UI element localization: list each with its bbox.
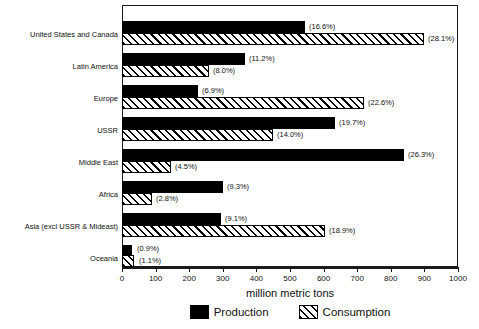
value-label-production-latin-america: (11.2%) [249, 53, 275, 65]
category-label-oceania: Oceania [0, 254, 118, 263]
bar-consumption-europe [122, 97, 364, 109]
value-label-production-united-states-and-canada: (16.6%) [309, 21, 335, 33]
legend-label-production: Production [214, 306, 269, 318]
x-tick-label-500: 500 [275, 274, 305, 284]
legend-swatch-consumption-icon [299, 305, 318, 319]
legend-item-production: Production [190, 305, 269, 319]
x-tick-400 [256, 267, 257, 272]
bar-production-united-states-and-canada [122, 21, 305, 33]
category-label-ussr: USSR [0, 126, 118, 135]
value-label-consumption-latin-america: (8.0%) [213, 65, 235, 77]
legend-swatch-production-icon [190, 305, 209, 319]
bar-consumption-oceania [122, 255, 134, 267]
category-label-europe: Europe [0, 94, 118, 103]
x-tick-800 [391, 267, 392, 272]
value-label-production-africa: (9.3%) [227, 181, 249, 193]
value-label-production-europe: (6.9%) [202, 85, 224, 97]
bar-consumption-africa [122, 193, 152, 205]
x-tick-label-0: 0 [107, 274, 137, 284]
x-tick-label-300: 300 [208, 274, 238, 284]
category-label-united-states-and-canada: United States and Canada [0, 30, 118, 39]
x-tick-label-700: 700 [342, 274, 372, 284]
x-tick-label-400: 400 [241, 274, 271, 284]
value-label-production-ussr: (19.7%) [339, 117, 365, 129]
bar-production-ussr [122, 117, 335, 129]
value-label-consumption-europe: (22.6%) [368, 97, 394, 109]
bar-production-middle-east [122, 149, 404, 161]
value-label-production-oceania: (0.9%) [137, 243, 159, 255]
value-label-production-middle-east: (26.3%) [408, 149, 434, 161]
legend-item-consumption: Consumption [299, 305, 391, 319]
x-tick-label-600: 600 [309, 274, 339, 284]
x-tick-900 [424, 267, 425, 272]
x-tick-100 [156, 267, 157, 272]
category-label-africa: Africa [0, 190, 118, 199]
value-label-consumption-asia: (18.9%) [329, 225, 355, 237]
bar-chart: United States and Canada Latin America E… [0, 0, 479, 329]
value-label-consumption-africa: (2.8%) [156, 193, 178, 205]
category-label-asia: Asia (excl USSR & Mideast) [0, 222, 118, 231]
bar-production-africa [122, 181, 223, 193]
chart-legend: Production Consumption [122, 305, 458, 319]
x-tick-label-100: 100 [141, 274, 171, 284]
x-tick-200 [189, 267, 190, 272]
bar-consumption-asia [122, 225, 325, 237]
bar-production-asia [122, 213, 221, 225]
x-tick-1000 [458, 267, 459, 272]
x-tick-label-900: 900 [409, 274, 439, 284]
value-label-consumption-ussr: (14.0%) [277, 129, 303, 141]
x-tick-label-200: 200 [174, 274, 204, 284]
category-label-latin-america: Latin America [0, 62, 118, 71]
bar-production-latin-america [122, 53, 245, 65]
x-axis-title: million metric tons [122, 287, 458, 299]
value-label-consumption-oceania: (1.1%) [139, 255, 161, 267]
x-tick-500 [290, 267, 291, 272]
bar-consumption-latin-america [122, 65, 209, 77]
value-label-consumption-middle-east: (4.5%) [175, 161, 197, 173]
bar-consumption-united-states-and-canada [122, 33, 424, 45]
x-tick-600 [324, 267, 325, 272]
x-tick-700 [357, 267, 358, 272]
category-label-middle-east: Middle East [0, 158, 118, 167]
bar-consumption-middle-east [122, 161, 171, 173]
bar-production-europe [122, 85, 198, 97]
bar-consumption-ussr [122, 129, 273, 141]
legend-label-consumption: Consumption [323, 306, 391, 318]
value-label-consumption-united-states-and-canada: (28.1%) [428, 33, 454, 45]
x-tick-0 [122, 267, 123, 272]
x-tick-label-800: 800 [376, 274, 406, 284]
x-tick-label-1000: 1000 [443, 274, 473, 284]
x-tick-300 [223, 267, 224, 272]
value-label-production-asia: (9.1%) [225, 213, 247, 225]
